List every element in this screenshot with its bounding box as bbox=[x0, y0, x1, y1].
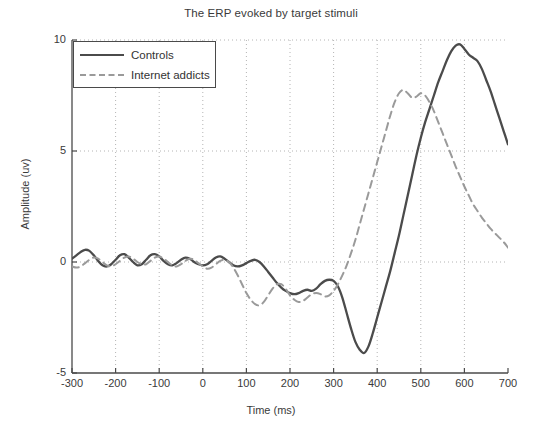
x-tick-label: 400 bbox=[357, 377, 397, 389]
x-tick-label: 0 bbox=[183, 377, 223, 389]
legend-label-internet-addicts: Internet addicts bbox=[131, 69, 210, 81]
y-tick-label: 5 bbox=[34, 144, 66, 156]
x-tick-label: -100 bbox=[139, 377, 179, 389]
x-tick-label: 200 bbox=[270, 377, 310, 389]
legend-label-controls: Controls bbox=[131, 49, 174, 61]
legend-line-solid-icon bbox=[80, 50, 124, 60]
erp-figure: The ERP evoked by target stimuli Control… bbox=[0, 0, 542, 432]
legend-line-dashed-icon bbox=[80, 70, 124, 80]
x-tick-label: 300 bbox=[314, 377, 354, 389]
y-tick-label: -5 bbox=[34, 366, 66, 378]
x-tick-label: 100 bbox=[226, 377, 266, 389]
x-tick-label: 700 bbox=[488, 377, 528, 389]
y-tick-label: 10 bbox=[34, 33, 66, 45]
plot-background bbox=[72, 40, 508, 373]
legend-item-internet-addicts: Internet addicts bbox=[80, 65, 210, 85]
x-axis-label: Time (ms) bbox=[0, 404, 542, 416]
x-tick-label: -300 bbox=[52, 377, 92, 389]
x-tick-label: 600 bbox=[444, 377, 484, 389]
x-tick-label: 500 bbox=[401, 377, 441, 389]
legend-item-controls: Controls bbox=[80, 45, 174, 65]
y-tick-label: 0 bbox=[34, 255, 66, 267]
chart-legend: Controls Internet addicts bbox=[73, 41, 216, 88]
x-tick-label: -200 bbox=[96, 377, 136, 389]
y-axis-label: Amplitude (uv) bbox=[19, 114, 31, 274]
